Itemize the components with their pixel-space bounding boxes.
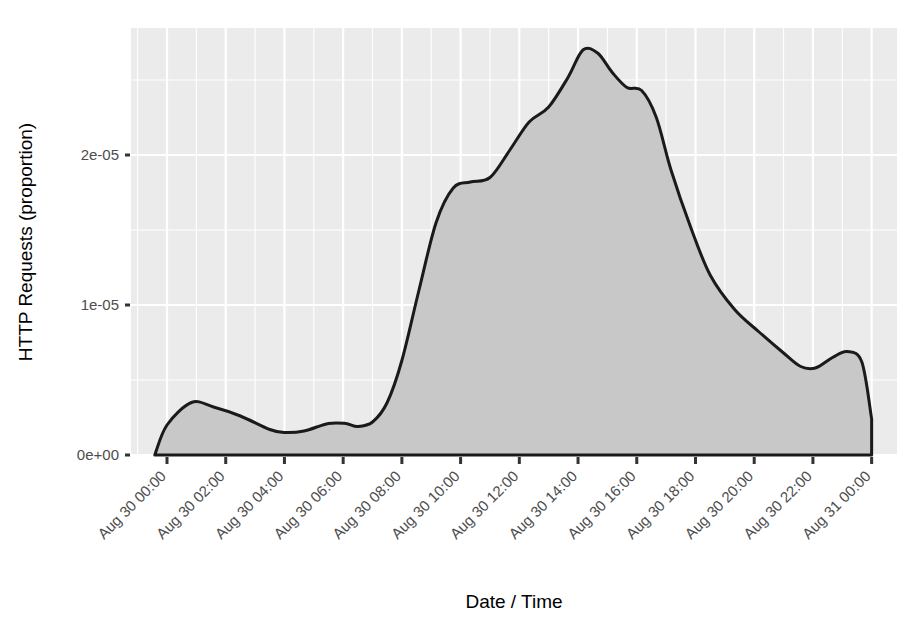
- y-tick-label: 2e-05: [81, 146, 119, 163]
- http-requests-area-chart: 0e+001e-052e-05 Aug 30 00:00Aug 30 02:00…: [0, 0, 923, 636]
- y-tick-label: 0e+00: [77, 446, 119, 463]
- y-tick-label: 1e-05: [81, 296, 119, 313]
- chart-container: 0e+001e-052e-05 Aug 30 00:00Aug 30 02:00…: [0, 0, 923, 636]
- y-axis-title: HTTP Requests (proportion): [15, 123, 36, 361]
- x-axis-title: Date / Time: [465, 591, 562, 612]
